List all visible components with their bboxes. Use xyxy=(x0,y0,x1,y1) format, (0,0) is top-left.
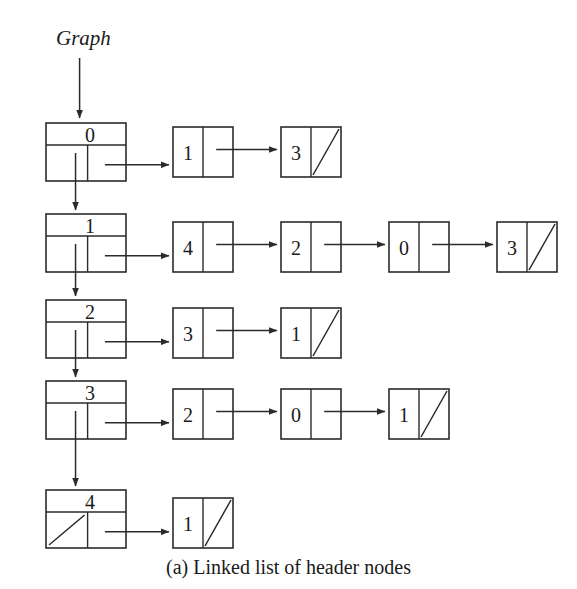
figure-caption: (a) Linked list of header nodes xyxy=(0,556,577,579)
list-node-value-3-1: 0 xyxy=(291,404,301,426)
list-node-value-1-2: 0 xyxy=(399,237,409,259)
header-index-label-1: 1 xyxy=(85,215,95,237)
list-node-value-2-1: 1 xyxy=(291,323,301,345)
list-node-null-slash-3-2 xyxy=(421,391,447,437)
diagram-drawing: 01314203231320141 xyxy=(46,58,557,548)
header-down-null-slash-4 xyxy=(49,515,85,545)
list-node-null-slash-1-3 xyxy=(529,224,555,270)
header-index-label-2: 2 xyxy=(85,301,95,323)
header-index-label-3: 3 xyxy=(85,382,95,404)
list-node-value-3-0: 2 xyxy=(183,404,193,426)
header-index-label-0: 0 xyxy=(85,124,95,146)
list-node-null-slash-4-0 xyxy=(205,500,231,546)
list-node-null-slash-0-1 xyxy=(313,129,339,175)
diagram-canvas: 01314203231320141 xyxy=(0,0,577,589)
linked-list-figure: Graph 01314203231320141 (a) Linked list … xyxy=(0,0,577,589)
list-node-value-1-0: 4 xyxy=(183,237,193,259)
list-node-value-3-2: 1 xyxy=(399,404,409,426)
list-node-value-2-0: 3 xyxy=(183,323,193,345)
header-index-label-4: 4 xyxy=(85,491,95,513)
list-node-value-4-0: 1 xyxy=(183,513,193,535)
list-node-null-slash-2-1 xyxy=(313,310,339,356)
list-node-value-0-0: 1 xyxy=(183,142,193,164)
list-node-value-1-3: 3 xyxy=(507,237,517,259)
list-node-value-0-1: 3 xyxy=(291,142,301,164)
list-node-value-1-1: 2 xyxy=(291,237,301,259)
